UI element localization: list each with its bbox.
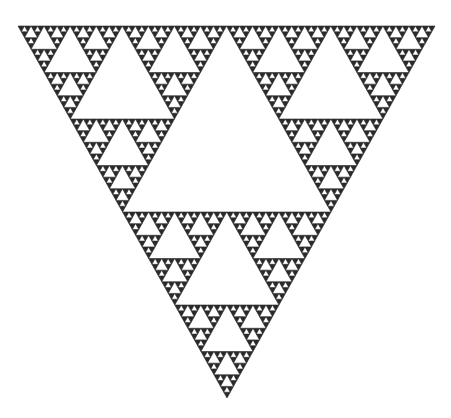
sierpinski-cell: [126, 125, 133, 131]
sierpinski-cell: [389, 84, 396, 90]
sierpinski-cell: [363, 73, 370, 79]
sierpinski-cell: [67, 113, 74, 119]
sierpinski-cell: [337, 189, 344, 195]
sierpinski-cell: [103, 38, 110, 44]
sierpinski-cell: [162, 270, 169, 276]
sierpinski-cell: [103, 119, 110, 125]
sierpinski-cell: [90, 26, 97, 32]
sierpinski-cell: [155, 235, 162, 241]
sierpinski-cell: [139, 148, 146, 154]
sierpinski-cell: [337, 131, 344, 137]
sierpinski-cell: [266, 212, 273, 218]
sierpinski-cell: [123, 212, 130, 218]
sierpinski-cell: [272, 26, 279, 32]
sierpinski-cell: [240, 305, 247, 311]
sierpinski-cell: [200, 26, 207, 32]
sierpinski-cell: [292, 119, 299, 125]
sierpinski-cell: [168, 259, 175, 265]
sierpinski-cell: [285, 38, 292, 44]
sierpinski-cell: [122, 119, 129, 125]
sierpinski-cell: [136, 224, 143, 230]
sierpinski-cell: [181, 259, 188, 265]
sierpinski-cell: [240, 363, 247, 369]
sierpinski-cell: [318, 119, 325, 125]
sierpinski-cell: [282, 32, 289, 38]
sierpinski-cell: [422, 26, 429, 32]
sierpinski-cell: [165, 78, 172, 84]
sierpinski-cell: [142, 166, 149, 172]
sierpinski-cell: [142, 119, 149, 125]
sierpinski-cell: [155, 259, 162, 265]
sierpinski-cell: [253, 73, 260, 79]
sierpinski-cell: [181, 270, 188, 276]
sierpinski-cell: [129, 166, 136, 172]
sierpinski-cell: [341, 183, 348, 189]
sierpinski-cell: [308, 218, 315, 224]
sierpinski-cell: [269, 311, 276, 317]
sierpinski-cell: [152, 264, 159, 270]
sierpinski-cell: [363, 38, 370, 44]
sierpinski-cell: [70, 107, 77, 113]
sierpinski-cell: [233, 224, 240, 230]
sierpinski-cell: [217, 32, 224, 38]
sierpinski-cell: [181, 224, 188, 230]
sierpinski-cell: [129, 212, 136, 218]
sierpinski-cell: [217, 311, 224, 317]
sierpinski-cell: [259, 235, 266, 241]
sierpinski-cell: [243, 218, 250, 224]
sierpinski-cell: [425, 32, 432, 38]
sierpinski-cell: [148, 73, 155, 79]
sierpinski-cell: [47, 55, 54, 61]
sierpinski-cell: [168, 119, 175, 125]
sierpinski-cell: [279, 259, 286, 265]
sierpinski-cell: [83, 26, 90, 32]
sierpinski-cell: [292, 142, 299, 148]
sierpinski-cell: [139, 241, 146, 247]
sierpinski-cell: [360, 125, 367, 131]
sierpinski-cell: [341, 136, 348, 142]
sierpinski-cell: [129, 224, 136, 230]
sierpinski-cell: [126, 32, 133, 38]
sierpinski-cell: [34, 32, 41, 38]
sierpinski-cell: [181, 317, 188, 323]
sierpinski-cell: [129, 177, 136, 183]
sierpinski-cell: [77, 38, 84, 44]
sierpinski-cell: [31, 38, 38, 44]
sierpinski-cell: [158, 136, 165, 142]
sierpinski-cell: [298, 154, 305, 160]
sierpinski-cell: [386, 102, 393, 108]
sierpinski-cell: [90, 142, 97, 148]
sierpinski-cell: [275, 113, 282, 119]
sierpinski-cell: [269, 218, 276, 224]
sierpinski-cell: [314, 43, 321, 49]
sierpinski-cell: [321, 218, 328, 224]
sierpinski-cell: [142, 61, 149, 67]
sierpinski-cell: [93, 160, 100, 166]
sierpinski-cell: [282, 288, 289, 294]
sierpinski-cell: [181, 84, 188, 90]
sierpinski-cell: [350, 26, 357, 32]
sierpinski-cell: [184, 276, 191, 282]
sierpinski-cell: [347, 32, 354, 38]
sierpinski-cell: [207, 224, 214, 230]
sierpinski-cell: [47, 32, 54, 38]
sierpinski-cell: [207, 328, 214, 334]
sierpinski-cell: [187, 84, 194, 90]
sierpinski-cell: [109, 26, 116, 32]
sierpinski-cell: [266, 26, 273, 32]
sierpinski-cell: [266, 305, 273, 311]
sierpinski-cell: [383, 73, 390, 79]
sierpinski-cell: [266, 38, 273, 44]
sierpinski-cell: [194, 212, 201, 218]
sierpinski-cell: [373, 78, 380, 84]
sierpinski-cell: [295, 125, 302, 131]
sierpinski-cell: [246, 305, 253, 311]
sierpinski-cell: [243, 357, 250, 363]
sierpinski-cell: [282, 218, 289, 224]
sierpinski-cell: [373, 125, 380, 131]
sierpinski-cell: [116, 119, 123, 125]
sierpinski-cell: [256, 55, 263, 61]
sierpinski-cell: [305, 142, 312, 148]
sierpinski-cell: [135, 131, 142, 137]
sierpinski-cell: [83, 84, 90, 90]
